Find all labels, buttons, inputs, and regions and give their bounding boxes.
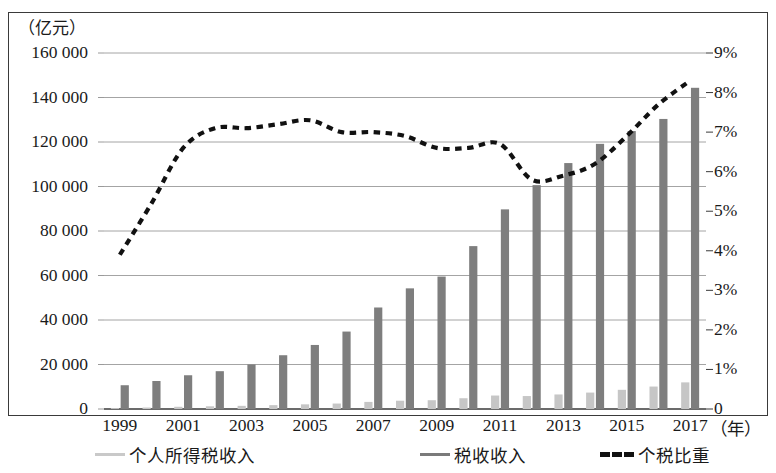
y-axis-tick-label: 160 000 [0,42,98,63]
y2-axis-tick-label: 5% [714,200,774,221]
y-axis-tick-label: 60 000 [0,265,98,286]
y-axis-tick-label: 20 000 [0,354,98,375]
x-axis-tick-label: 2001 [153,415,213,436]
y-axis-tick-label: 0 [0,398,98,419]
bar-personal-tax [459,398,467,409]
bar-personal-tax [649,387,657,409]
x-axis-tick-label: 2005 [280,415,340,436]
bar-total-tax [121,385,129,409]
legend-label: 税收收入 [454,442,526,467]
legend-item[interactable]: 税收收入 [420,442,526,467]
y-axis-tick-label: 40 000 [0,309,98,330]
bar-total-tax [311,345,319,409]
x-axis-unit-label: （年） [710,415,761,440]
ratio-line [120,81,690,255]
legend-item[interactable]: 个人所得税收入 [95,442,255,467]
bar-total-tax [659,119,667,409]
bar-personal-tax [396,401,404,409]
bar-personal-tax [618,390,626,409]
bar-total-tax [374,307,382,409]
x-axis-tick-label: 2009 [407,415,467,436]
y2-axis-tick-label: 3% [714,279,774,300]
bar-personal-tax [681,382,689,409]
bar-total-tax [279,355,287,409]
bar-personal-tax [554,394,562,409]
legend-label: 个人所得税收入 [129,442,255,467]
bar-total-tax [533,185,541,409]
y2-axis-tick-label: 6% [714,161,774,182]
bar-total-tax [406,288,414,409]
bar-personal-tax [174,407,182,409]
bar-personal-tax [523,396,531,409]
legend-label: 个税比重 [638,442,710,467]
y2-axis-tick-label: 8% [714,82,774,103]
bar-personal-tax [143,408,151,409]
y2-axis-tick-label: 1% [714,358,774,379]
bar-personal-tax [364,402,372,409]
legend-line-icon [420,453,450,456]
bar-total-tax [152,381,160,409]
bar-personal-tax [428,400,436,409]
bar-total-tax [628,131,636,409]
bar-total-tax [437,277,445,409]
x-axis-tick-label: 1999 [90,415,150,436]
y-axis-tick-label: 100 000 [0,176,98,197]
chart-plot-area [0,0,776,473]
bar-total-tax [216,371,224,409]
bar-personal-tax [586,393,594,409]
y-axis-tick-label: 140 000 [0,87,98,108]
y-axis-tick-label: 120 000 [0,131,98,152]
bar-total-tax [342,332,350,409]
legend-item[interactable]: 个税比重 [600,442,710,467]
x-axis-tick-label: 2007 [343,415,403,436]
bar-total-tax [691,88,699,409]
bar-total-tax [184,375,192,409]
bar-personal-tax [301,404,309,409]
x-axis-tick-label: 2015 [597,415,657,436]
legend-dotted-line-icon [600,452,634,457]
x-axis-tick-label: 2013 [533,415,593,436]
y2-axis-tick-label: 9% [714,42,774,63]
bar-personal-tax [111,408,119,409]
y2-axis-tick-label: 4% [714,240,774,261]
bar-total-tax [247,364,255,409]
bar-total-tax [469,246,477,409]
x-axis-tick-label: 2003 [217,415,277,436]
bar-personal-tax [491,396,499,409]
bar-personal-tax [238,406,246,409]
x-axis-tick-label: 2011 [470,415,530,436]
bar-total-tax [501,209,509,409]
y2-axis-tick-label: 2% [714,319,774,340]
y2-axis-tick-label: 7% [714,121,774,142]
bar-personal-tax [206,406,214,409]
bar-personal-tax [333,404,341,409]
y-axis-tick-label: 80 000 [0,220,98,241]
bar-personal-tax [269,405,277,409]
bar-total-tax [564,163,572,409]
legend-line-icon [95,453,125,456]
bar-total-tax [596,144,604,409]
